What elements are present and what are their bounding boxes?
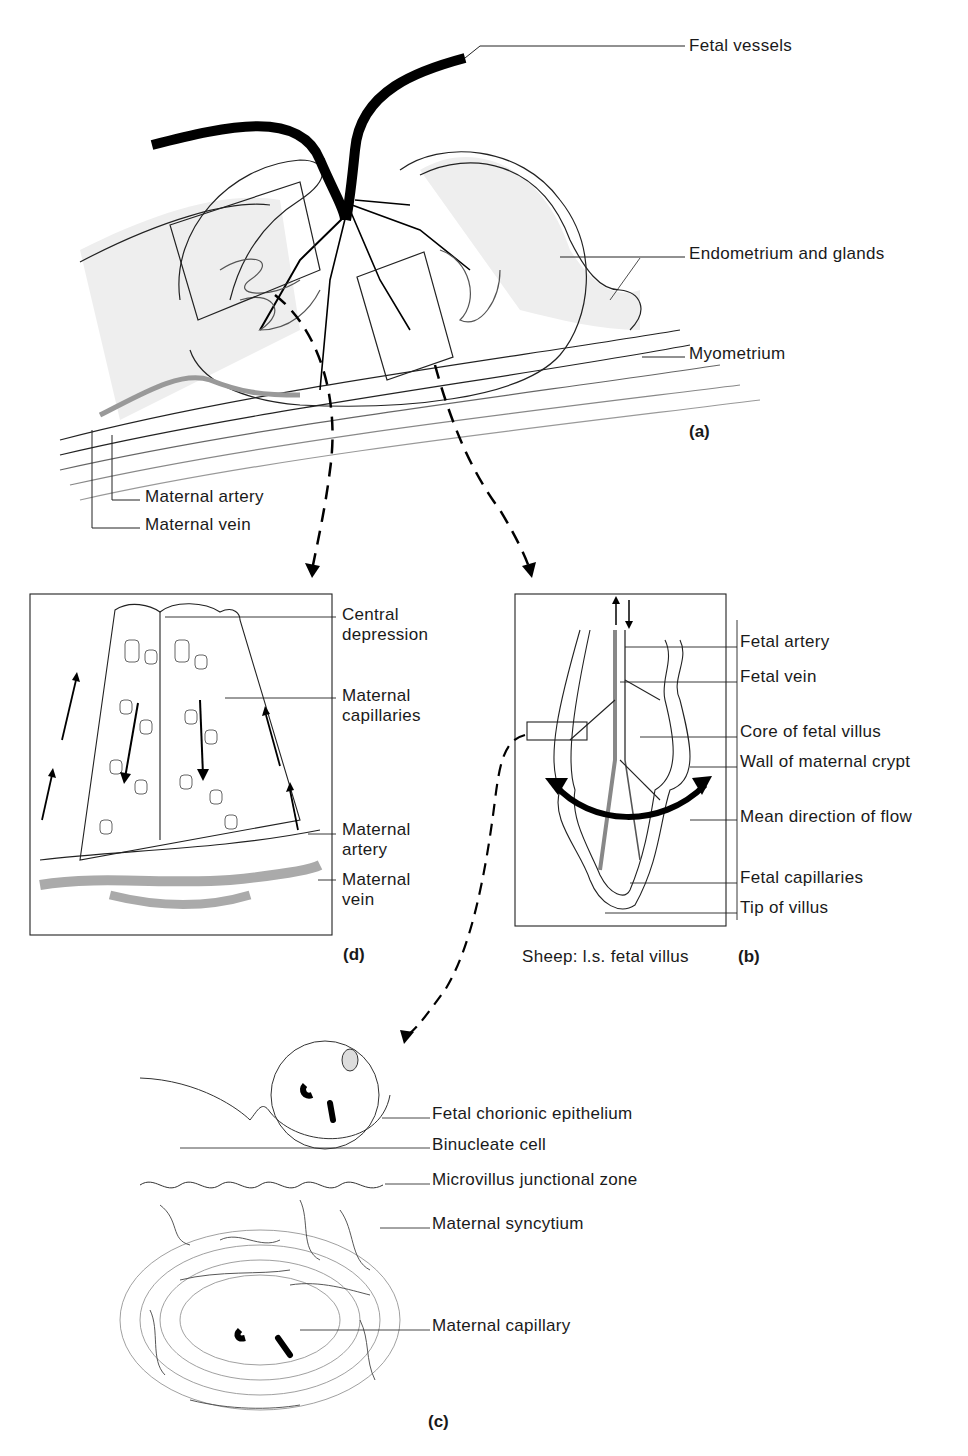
label-central-depression: Central depression <box>342 605 462 645</box>
label-binucleate-cell: Binucleate cell <box>432 1135 546 1155</box>
label-endometrium-and-glands: Endometrium and glands <box>689 244 885 264</box>
label-maternal-capillary: Maternal capillary <box>432 1316 571 1336</box>
label-maternal-artery-a: Maternal artery <box>145 487 264 507</box>
label-fetal-vein: Fetal vein <box>740 667 817 687</box>
label-myometrium: Myometrium <box>689 344 786 364</box>
caption-sheep-fetal-villus: Sheep: l.s. fetal villus <box>522 947 689 967</box>
panel-c-drawing <box>120 1041 430 1410</box>
label-microvillus-junctional-zone: Microvillus junctional zone <box>432 1170 638 1190</box>
panel-tag-d: (d) <box>343 945 365 965</box>
label-tip-of-villus: Tip of villus <box>740 898 828 918</box>
label-maternal-vein-a: Maternal vein <box>145 515 251 535</box>
label-maternal-syncytium: Maternal syncytium <box>432 1214 584 1234</box>
panel-tag-b: (b) <box>738 947 760 967</box>
label-fetal-vessels: Fetal vessels <box>689 36 792 56</box>
label-mean-direction-of-flow: Mean direction of flow <box>740 807 930 827</box>
label-fetal-artery: Fetal artery <box>740 632 830 652</box>
panel-b-drawing <box>400 594 737 1044</box>
panel-tag-c: (c) <box>428 1412 449 1432</box>
label-core-of-fetal-villus: Core of fetal villus <box>740 722 881 742</box>
label-fetal-capillaries: Fetal capillaries <box>740 868 863 888</box>
panel-tag-a: (a) <box>689 422 710 442</box>
label-maternal-artery-d: Maternal artery <box>342 820 432 860</box>
label-maternal-vein-d: Maternal vein <box>342 870 432 910</box>
label-wall-of-maternal-crypt: Wall of maternal crypt <box>740 752 920 772</box>
panel-d-drawing <box>30 594 336 935</box>
label-maternal-capillaries: Maternal capillaries <box>342 686 462 726</box>
label-fetal-chorionic-epithelium: Fetal chorionic epithelium <box>432 1104 633 1124</box>
